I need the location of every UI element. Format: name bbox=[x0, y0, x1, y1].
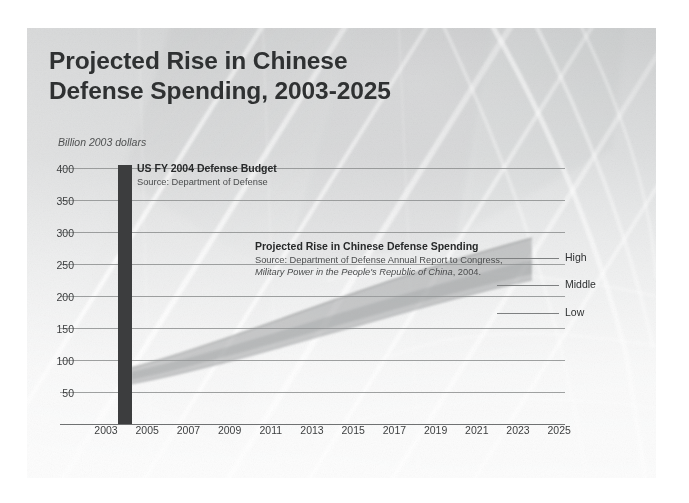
gridline-200 bbox=[60, 296, 565, 297]
y-tick-200: 200 bbox=[27, 291, 74, 303]
annotation-us-budget: US FY 2004 Defense Budget Source: Depart… bbox=[137, 162, 367, 188]
annotation-us-budget-heading: US FY 2004 Defense Budget bbox=[137, 162, 367, 176]
x-tick-2003: 2003 bbox=[94, 424, 117, 436]
leader-line-high bbox=[497, 258, 559, 259]
y-axis-label: Billion 2003 dollars bbox=[58, 136, 146, 148]
x-tick-2021: 2021 bbox=[465, 424, 488, 436]
x-tick-2005: 2005 bbox=[136, 424, 159, 436]
annotation-china-heading: Projected Rise in Chinese Defense Spendi… bbox=[255, 240, 555, 254]
gridline-300 bbox=[60, 232, 565, 233]
us-budget-bar bbox=[118, 165, 132, 424]
y-tick-350: 350 bbox=[27, 195, 74, 207]
annotation-china-source-tail: , 2004. bbox=[453, 267, 481, 277]
gridline-100 bbox=[60, 360, 565, 361]
annotation-us-budget-source: Source: Department of Defense bbox=[137, 176, 367, 188]
x-tick-2009: 2009 bbox=[218, 424, 241, 436]
annotation-china-source-line1: Source: Department of Defense Annual Rep… bbox=[255, 254, 555, 266]
x-tick-2023: 2023 bbox=[506, 424, 529, 436]
gridline-350 bbox=[60, 200, 565, 201]
band-label-low: Low bbox=[565, 306, 584, 318]
annotation-china-projection: Projected Rise in Chinese Defense Spendi… bbox=[255, 240, 555, 279]
x-tick-2007: 2007 bbox=[177, 424, 200, 436]
x-tick-2013: 2013 bbox=[300, 424, 323, 436]
x-tick-2011: 2011 bbox=[260, 424, 283, 436]
leader-line-low bbox=[497, 313, 559, 314]
x-tick-2019: 2019 bbox=[424, 424, 447, 436]
chart-panel: Projected Rise in Chinese Defense Spendi… bbox=[27, 28, 656, 478]
x-tick-2017: 2017 bbox=[383, 424, 406, 436]
plot-area: Billion 2003 dollars 400 350 300 250 200… bbox=[27, 28, 656, 478]
annotation-china-source-italic: Military Power in the People's Republic … bbox=[255, 267, 453, 277]
y-tick-250: 250 bbox=[27, 259, 74, 271]
leader-line-middle bbox=[497, 285, 559, 286]
y-tick-150: 150 bbox=[27, 323, 74, 335]
y-tick-100: 100 bbox=[27, 355, 74, 367]
band-label-middle: Middle bbox=[565, 278, 596, 290]
annotation-china-source-line2: Military Power in the People's Republic … bbox=[255, 266, 555, 278]
band-label-high: High bbox=[565, 251, 587, 263]
y-tick-50: 50 bbox=[27, 387, 74, 399]
x-tick-2015: 2015 bbox=[342, 424, 365, 436]
x-tick-2025: 2025 bbox=[548, 424, 571, 436]
screenshot-root: Projected Rise in Chinese Defense Spendi… bbox=[0, 0, 689, 503]
gridline-150 bbox=[60, 328, 565, 329]
gridline-50 bbox=[60, 392, 565, 393]
y-tick-300: 300 bbox=[27, 227, 74, 239]
y-tick-400: 400 bbox=[27, 163, 74, 175]
